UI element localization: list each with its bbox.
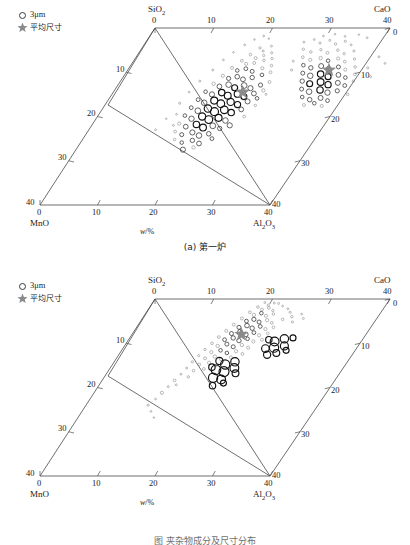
axis-top-tick-0-a: 0 — [152, 15, 156, 25]
data-points — [147, 302, 304, 419]
axis-vertex-cao-b: CaO — [374, 275, 391, 285]
figure-caption: 图 夹杂物成分及尺寸分布 — [0, 534, 410, 545]
axis-bottom-tick-10-b: 10 — [92, 478, 101, 488]
axis-bottom-tick-0-a: 0 — [37, 207, 41, 217]
axis-vertex-mno-a: MnO — [30, 218, 49, 228]
mean-size-markers — [234, 327, 248, 341]
axis-right-tick-10-b: 10 — [361, 341, 370, 351]
axis-right-tick-0-b: 0 — [393, 298, 397, 308]
caption-panel-a: (a) 第一炉 — [0, 240, 410, 253]
axis-bottom-tick-30-b: 30 — [207, 478, 216, 488]
ternary-plot-a — [0, 0, 410, 272]
axis-left-tick-10-a: 10 — [116, 64, 125, 74]
panel-a: 3μm 平均尺寸 — [0, 0, 410, 272]
axis-right-tick-40-b: 40 — [272, 470, 281, 480]
axis-top-tick-40-a: 40 — [383, 15, 392, 25]
axis-right-tick-30-a: 30 — [301, 158, 310, 168]
axis-top-tick-0-b: 0 — [152, 286, 156, 296]
axis-top-tick-20-b: 20 — [266, 286, 275, 296]
axis-vertex-mno-b: MnO — [30, 489, 49, 499]
data-points — [155, 33, 386, 152]
axis-top-tick-40-b: 40 — [383, 286, 392, 296]
axis-left-tick-10-b: 10 — [116, 335, 125, 345]
axis-vertex-cao-a: CaO — [374, 4, 391, 14]
axis-right-tick-20-a: 20 — [331, 114, 340, 124]
axis-bottom-tick-20-b: 20 — [149, 478, 158, 488]
axis-bottom-tick-40-a: 40 — [264, 207, 273, 217]
axis-left-tick-30-a: 30 — [58, 152, 67, 162]
axis-bottom-tick-20-a: 20 — [149, 207, 158, 217]
axis-right-tick-30-b: 30 — [301, 429, 310, 439]
axis-bottom-tick-0-b: 0 — [37, 478, 41, 488]
axis-top-tick-30-a: 30 — [325, 15, 334, 25]
axis-top-tick-30-b: 30 — [325, 286, 334, 296]
figure-root: 3μm 平均尺寸 — [0, 0, 410, 545]
axis-vertex-sio2-b: SiO2 — [148, 275, 165, 287]
axis-top-tick-10-a: 10 — [207, 15, 216, 25]
axis-right-tick-10-a: 10 — [361, 70, 370, 80]
axis-bottom-tick-40-b: 40 — [264, 478, 273, 488]
axis-unit-label-b: w/% — [140, 498, 154, 507]
axis-bottom-tick-30-a: 30 — [207, 207, 216, 217]
axis-unit-label-a: w/% — [140, 227, 154, 236]
axis-vertex-al2o3-a: Al2O3 — [253, 218, 275, 230]
axis-left-tick-30-b: 30 — [58, 423, 67, 433]
axis-right-tick-0-a: 0 — [393, 27, 397, 37]
axis-right-tick-40-a: 40 — [272, 199, 281, 209]
axis-top-tick-20-a: 20 — [266, 15, 275, 25]
axis-bottom-tick-10-a: 10 — [92, 207, 101, 217]
axis-left-tick-20-b: 20 — [87, 379, 96, 389]
axis-top-tick-10-b: 10 — [207, 286, 216, 296]
axis-left-tick-40-b: 40 — [26, 468, 35, 478]
axis-right-tick-20-b: 20 — [331, 385, 340, 395]
panel-b: 3μm 平均尺寸 — [0, 271, 410, 543]
axis-vertex-sio2-a: SiO2 — [148, 4, 165, 16]
axis-vertex-al2o3-b: Al2O3 — [253, 489, 275, 501]
axis-left-tick-40-a: 40 — [26, 197, 35, 207]
ternary-plot-b — [0, 271, 410, 543]
axis-left-tick-20-a: 20 — [87, 108, 96, 118]
